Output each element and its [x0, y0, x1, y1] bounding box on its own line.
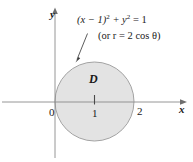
- x-axis-label: x: [179, 104, 185, 115]
- annotation-leader-line: [77, 34, 88, 60]
- equation-cartesian: (x − 1)2 + y2 = 1: [77, 15, 147, 26]
- tick-label-zero: 0: [49, 107, 55, 118]
- equation-polar-text: (or r = 2 cos θ): [98, 30, 161, 41]
- tick-label-one: 1: [92, 108, 98, 119]
- tick-label-two: 2: [137, 106, 143, 117]
- equation-cartesian-rhs: = 1: [130, 14, 146, 25]
- region-label: D: [89, 73, 98, 85]
- equation-cartesian-lhs: (x − 1): [77, 14, 106, 25]
- equation-polar: (or r = 2 cos θ): [98, 31, 161, 42]
- figure-canvas: (x − 1)2 + y2 = 1 (or r = 2 cos θ) y x 0…: [0, 0, 193, 162]
- equation-cartesian-mid: + y: [110, 14, 127, 25]
- y-axis-label: y: [50, 9, 55, 20]
